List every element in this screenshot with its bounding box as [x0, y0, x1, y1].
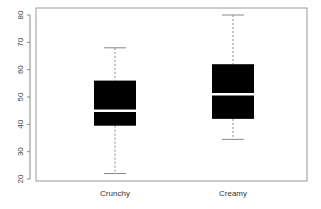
y-tick-label: 30 [16, 147, 25, 156]
box-plot: 20304050607080CrunchyCreamy [0, 0, 321, 209]
y-tick-label: 40 [16, 119, 25, 128]
plot-frame [36, 8, 307, 181]
y-tick-label: 80 [16, 10, 25, 19]
box-crunchy [94, 81, 136, 126]
y-tick-label: 60 [16, 65, 25, 74]
y-tick-label: 20 [16, 174, 25, 183]
x-category-label: Creamy [219, 189, 247, 198]
y-tick-label: 50 [16, 92, 25, 101]
y-tick-label: 70 [16, 37, 25, 46]
box-creamy [212, 64, 254, 119]
x-category-label: Crunchy [100, 189, 130, 198]
